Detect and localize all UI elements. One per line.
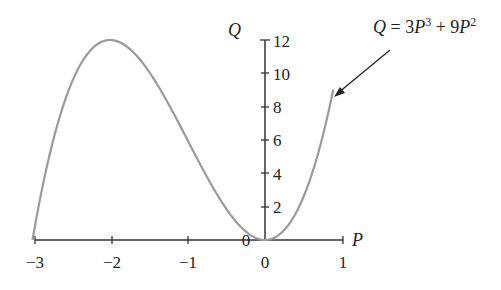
equation-annotation: Q = 3P3 + 9P2 xyxy=(373,15,476,37)
x-tick-label: 1 xyxy=(339,253,348,272)
y-tick-label: 8 xyxy=(273,98,282,117)
chart: −3 −2 −1 0 1 0 2 4 6 8 10 12 Q P Q = 3P3… xyxy=(0,0,501,290)
y-tick-label: 4 xyxy=(273,165,282,184)
y-tick-label: 6 xyxy=(273,131,282,150)
x-tick-label: −1 xyxy=(179,253,197,272)
x-tick-label: −2 xyxy=(103,253,121,272)
annotation-arrow-icon xyxy=(334,50,390,97)
origin-label: 0 xyxy=(242,231,251,250)
y-tick-label: 2 xyxy=(273,198,282,217)
x-tick-label: −3 xyxy=(26,253,44,272)
x-axis-title: P xyxy=(351,230,363,250)
y-tick-label: 10 xyxy=(273,65,290,84)
x-tick-label: 0 xyxy=(261,253,270,272)
y-tick-label: 12 xyxy=(273,32,290,51)
y-axis-title: Q xyxy=(228,20,241,40)
